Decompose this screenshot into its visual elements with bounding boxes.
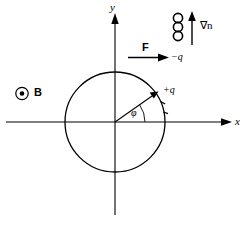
y-axis-arrowhead bbox=[111, 13, 118, 24]
magnetic-field-label: B bbox=[34, 87, 42, 98]
x-axis-label: x bbox=[235, 116, 240, 127]
x-axis-arrowhead bbox=[221, 118, 232, 125]
physics-diagram-figure: y x φ +q −q F B ∇n bbox=[0, 0, 244, 238]
b-field-center-dot bbox=[20, 91, 25, 96]
negative-charge-label: −q bbox=[171, 52, 183, 62]
density-gradient-label: ∇n bbox=[200, 20, 213, 31]
force-label: F bbox=[142, 42, 149, 53]
positive-charge-label: +q bbox=[163, 85, 175, 95]
density-circle-2 bbox=[173, 22, 182, 31]
y-axis-label: y bbox=[110, 2, 115, 13]
gradient-arrowhead bbox=[188, 11, 196, 21]
force-arrowhead bbox=[158, 54, 169, 62]
angle-phi-label: φ bbox=[131, 108, 137, 118]
angle-arc-phi bbox=[140, 105, 145, 122]
density-circle-3 bbox=[173, 31, 182, 40]
diagram-canvas bbox=[0, 0, 244, 238]
density-circle-1 bbox=[173, 13, 182, 22]
